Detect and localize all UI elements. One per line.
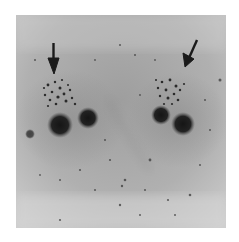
micrograph-image bbox=[16, 15, 226, 228]
